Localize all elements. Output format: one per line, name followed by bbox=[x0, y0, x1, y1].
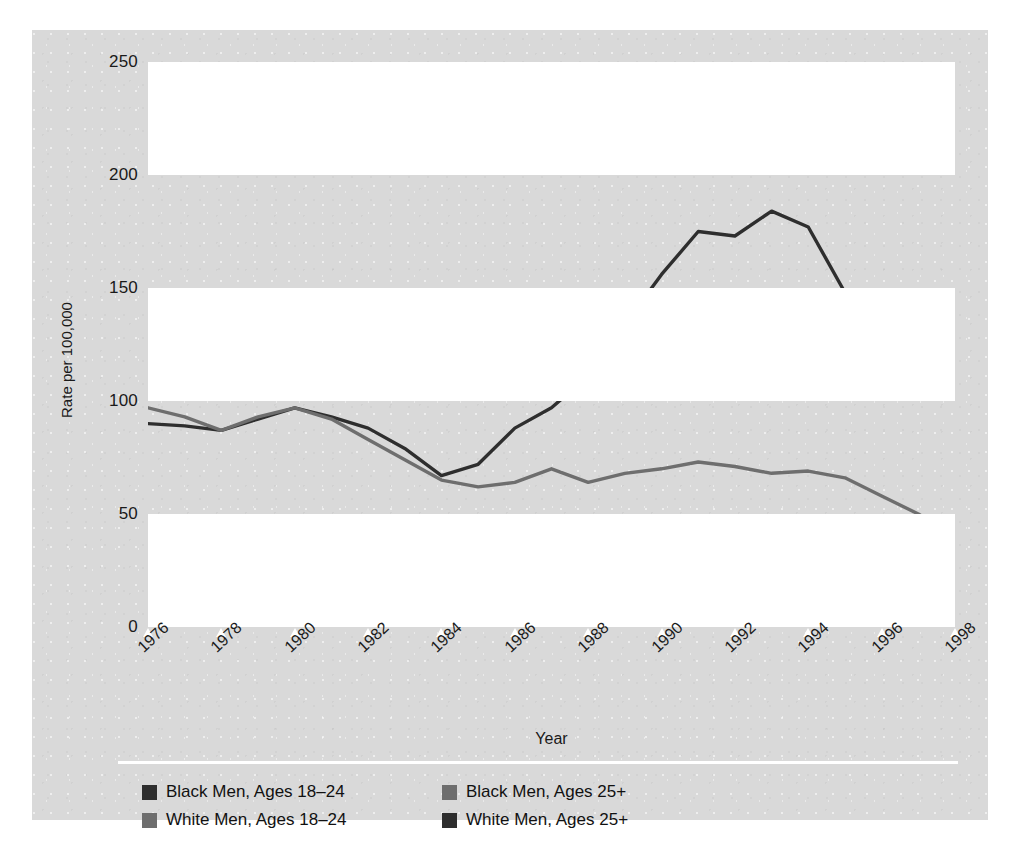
y-tick-label: 50 bbox=[119, 504, 138, 524]
legend-label: Black Men, Ages 18–24 bbox=[166, 782, 345, 802]
legend-swatch bbox=[442, 813, 457, 828]
plot-area: 050100150200250 197619781980198219841986… bbox=[148, 62, 955, 627]
background-band bbox=[148, 288, 955, 401]
legend-swatch bbox=[142, 785, 157, 800]
legend-item: White Men, Ages 18–24 bbox=[142, 810, 442, 830]
legend-item: Black Men, Ages 25+ bbox=[442, 782, 942, 802]
legend-swatch bbox=[442, 785, 457, 800]
y-tick-label: 0 bbox=[128, 617, 138, 637]
legend-label: White Men, Ages 25+ bbox=[466, 810, 628, 830]
chart-figure: Rate per 100,000 050100150200250 1976197… bbox=[32, 30, 988, 820]
y-tick-label: 200 bbox=[109, 165, 138, 185]
legend-divider bbox=[118, 761, 958, 764]
y-tick-label: 250 bbox=[109, 52, 138, 72]
y-tick-label: 150 bbox=[109, 278, 138, 298]
background-band bbox=[148, 62, 955, 175]
chart-legend: Black Men, Ages 18–24Black Men, Ages 25+… bbox=[142, 778, 942, 834]
legend-label: White Men, Ages 18–24 bbox=[166, 810, 347, 830]
x-tick-label: 1976 bbox=[134, 619, 172, 656]
legend-label: Black Men, Ages 25+ bbox=[466, 782, 626, 802]
legend-swatch bbox=[142, 813, 157, 828]
legend-item: Black Men, Ages 18–24 bbox=[142, 782, 442, 802]
y-tick-label: 100 bbox=[109, 391, 138, 411]
background-band bbox=[148, 514, 955, 627]
legend-item: White Men, Ages 25+ bbox=[442, 810, 942, 830]
x-axis-title: Year bbox=[148, 730, 955, 748]
y-axis-title: Rate per 100,000 bbox=[58, 302, 75, 418]
